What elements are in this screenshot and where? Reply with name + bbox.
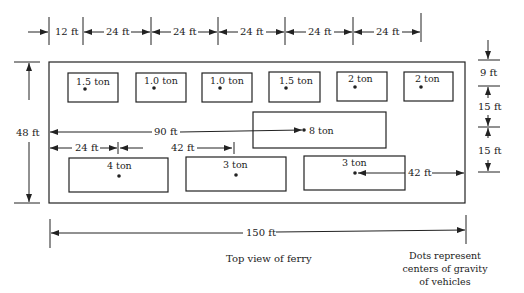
dim-length: 150 ft <box>246 227 276 238</box>
vehicle: 1.0 ton <box>202 73 252 102</box>
svg-text:1.0 ton: 1.0 ton <box>144 75 178 86</box>
svg-text:3 ton: 3 ton <box>223 159 248 170</box>
dim-42ft-b: 42 ft <box>408 167 432 178</box>
svg-text:2 ton: 2 ton <box>415 73 440 84</box>
dim-top-2: 24 ft <box>173 26 197 37</box>
cg-dot <box>353 171 357 175</box>
dim-width: 48 ft <box>16 127 40 138</box>
dim-top-0: 12 ft <box>55 26 79 37</box>
ferry-diagram: 12 ft 24 ft 24 ft 24 ft 24 ft 24 ft 48 f… <box>0 0 524 293</box>
cg-dot <box>218 86 222 90</box>
dim-right-1: 15 ft <box>478 101 502 112</box>
cg-dot <box>419 85 423 89</box>
vehicle: 2 ton <box>337 72 387 101</box>
svg-text:3 ton: 3 ton <box>342 157 367 168</box>
figure-caption: Top view of ferry <box>226 253 312 264</box>
vehicle: 1.5 ton <box>68 73 118 102</box>
vehicle: 2 ton <box>404 72 453 101</box>
dim-90ft: 90 ft <box>154 126 178 137</box>
dim-42ft-a: 42 ft <box>171 142 195 153</box>
svg-text:8 ton: 8 ton <box>309 125 334 136</box>
length-dimension: 150 ft <box>50 215 466 248</box>
vehicle: 1.0 ton <box>136 73 186 102</box>
dim-24ft: 24 ft <box>75 142 99 153</box>
dim-top-1: 24 ft <box>106 26 130 37</box>
dim-top-3: 24 ft <box>240 26 264 37</box>
width-dimension: 48 ft <box>14 62 40 203</box>
svg-text:1.0 ton: 1.0 ton <box>210 75 244 86</box>
svg-text:1.5 ton: 1.5 ton <box>76 76 110 87</box>
svg-text:1.5 ton: 1.5 ton <box>279 75 313 86</box>
dim-right-2: 15 ft <box>478 145 502 156</box>
note-line-2: centers of gravity <box>402 263 488 274</box>
cg-dot <box>83 87 87 91</box>
svg-text:4 ton: 4 ton <box>107 160 132 171</box>
note-line-1: Dots represent <box>409 250 481 261</box>
cg-dot <box>284 86 288 90</box>
svg-text:2 ton: 2 ton <box>348 73 373 84</box>
vehicle: 1.5 ton <box>269 72 320 102</box>
top-dimension-line: 12 ft 24 ft 24 ft 24 ft 24 ft 24 ft <box>28 13 421 45</box>
vehicle-3ton: 3 ton <box>186 157 286 191</box>
right-dimensions: 9 ft 15 ft 15 ft <box>478 40 502 172</box>
vehicle-4ton: 4 ton <box>69 158 168 192</box>
dim-right-0: 9 ft <box>480 67 497 78</box>
cg-dot <box>353 85 357 89</box>
dim-top-5: 24 ft <box>376 26 400 37</box>
cg-dot <box>302 128 306 132</box>
cg-dot <box>117 174 121 178</box>
dim-top-4: 24 ft <box>308 26 332 37</box>
note-line-3: of vehicles <box>419 276 470 287</box>
cg-dot <box>152 86 156 90</box>
cg-dot <box>234 173 238 177</box>
